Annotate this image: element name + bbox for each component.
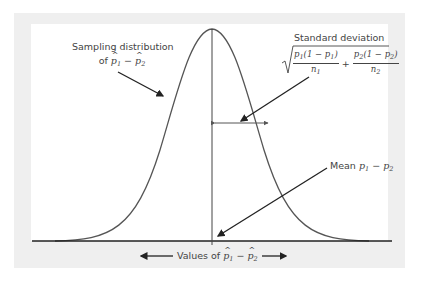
mean-pointer-arrow: [218, 168, 327, 236]
mean-expr: p1 − p2: [359, 160, 393, 171]
axis-expr: p1 − p2: [223, 250, 257, 261]
sd-title: Standard deviation: [294, 32, 384, 43]
plus-sign: +: [342, 58, 350, 69]
sd-formula: p1(1 − p1)n1 + p2(1 − p2)n2: [293, 49, 399, 78]
sampling-pointer-arrow: [118, 72, 163, 96]
sd-fraction-2: p2(1 − p2)n2: [353, 49, 399, 78]
x-axis-label: Values of p1 − p2: [177, 250, 258, 265]
sampling-expr: p1 − p2: [111, 55, 145, 66]
sampling-distribution-label: Sampling distribution of p1 − p2: [72, 41, 172, 70]
mean-label: Mean p1 − p2: [330, 160, 393, 175]
axis-prefix: Values of: [177, 250, 223, 261]
sampling-label-line1: Sampling distribution: [72, 41, 172, 52]
sampling-label-line2: of p1 − p2: [72, 55, 172, 70]
sd-pointer-arrow: [241, 77, 309, 121]
mean-prefix: Mean: [330, 160, 359, 171]
sampling-of-text: of: [99, 55, 111, 66]
sd-fraction-1: p1(1 − p1)n1: [293, 49, 339, 78]
